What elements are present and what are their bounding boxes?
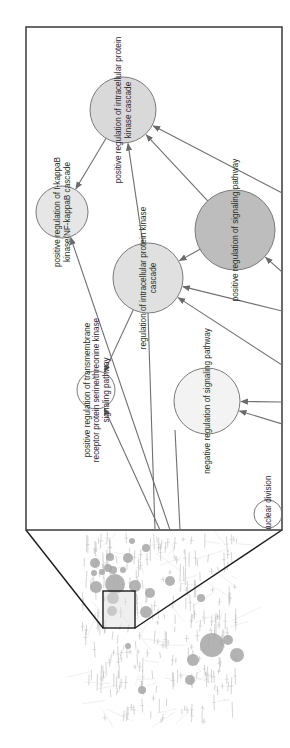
- overview-node: [142, 544, 150, 552]
- overview-node: [185, 675, 195, 685]
- overview-node: [99, 569, 105, 575]
- overview-node: [145, 588, 155, 598]
- overview-node: [140, 606, 152, 618]
- overview-network-thumbnail: [68, 531, 260, 728]
- overview-node: [90, 558, 100, 568]
- network-figure: positive regulation of intracellular pro…: [0, 0, 290, 748]
- overview-node: [223, 635, 233, 645]
- node-label: positive regulation of I-kappaBkinase/NF…: [53, 156, 72, 267]
- node-label: positive regulation of signaling pathway: [231, 158, 240, 301]
- node-label: negative regulation of signaling pathway: [203, 327, 212, 474]
- overview-node: [129, 580, 141, 592]
- overview-node: [125, 643, 131, 649]
- edge-offscreen-right-4-to-n6: [241, 401, 282, 402]
- overview-node: [187, 654, 199, 666]
- overview-node: [230, 648, 244, 662]
- overview-node: [109, 566, 117, 574]
- overview-node: [90, 581, 102, 593]
- overview-node: [197, 594, 205, 602]
- overview-node: [138, 686, 146, 694]
- overview-node: [165, 576, 175, 586]
- overview-node: [106, 553, 114, 561]
- overview-node: [123, 553, 133, 563]
- overview-node: [200, 633, 224, 657]
- overview-node: [91, 570, 97, 576]
- overview-node: [129, 538, 135, 544]
- overview-node: [120, 567, 126, 573]
